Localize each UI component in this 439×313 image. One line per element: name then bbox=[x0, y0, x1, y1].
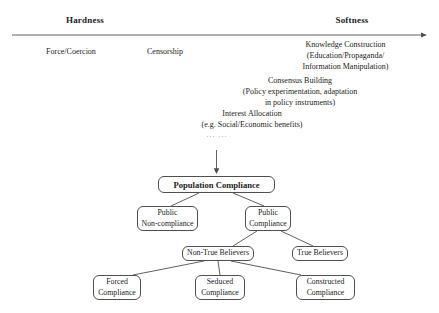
node-non-true-believers: Non-True Believers bbox=[182, 246, 254, 261]
node-true-believers: True Believers bbox=[292, 246, 348, 261]
edge-compliance-nontrue bbox=[233, 231, 257, 246]
edge-nontrue-forced bbox=[133, 261, 204, 275]
node-public-compliance: Public Compliance bbox=[245, 206, 291, 231]
node-forced-compliance: Forced Compliance bbox=[93, 275, 141, 300]
softness-label: Softness bbox=[302, 15, 402, 25]
instrument-interest-allocation: Interest Allocation (e.g. Social/Economi… bbox=[174, 108, 330, 130]
spectrum-axis-arrowhead-icon bbox=[421, 32, 427, 37]
instrument-force-coercion: Force/Coercion bbox=[21, 46, 121, 57]
edge-compliance-true bbox=[281, 231, 313, 246]
edge-nontrue-seduced bbox=[218, 261, 220, 275]
edge-root-compliance bbox=[233, 193, 264, 206]
node-constructed-compliance: Constructed Compliance bbox=[296, 275, 355, 300]
edge-nontrue-constructed bbox=[231, 261, 301, 275]
edge-root-noncompliance bbox=[171, 193, 199, 206]
spectrum-ellipsis: ... ... bbox=[187, 130, 247, 139]
compliance-diagram: Hardness Softness Force/Coercion Censors… bbox=[0, 0, 439, 313]
node-public-non-compliance: Public Non-compliance bbox=[137, 206, 198, 231]
instrument-consensus-building: Consensus Building (Policy experimentati… bbox=[222, 75, 378, 108]
node-population-compliance: Population Compliance bbox=[158, 176, 275, 193]
flow-arrowhead-icon bbox=[214, 168, 220, 174]
hardness-label: Hardness bbox=[35, 15, 135, 25]
instrument-knowledge-construction: Knowledge Construction (Education/Propag… bbox=[268, 39, 423, 72]
node-seduced-compliance: Seduced Compliance bbox=[195, 275, 245, 300]
instrument-censorship: Censorship bbox=[115, 46, 215, 57]
